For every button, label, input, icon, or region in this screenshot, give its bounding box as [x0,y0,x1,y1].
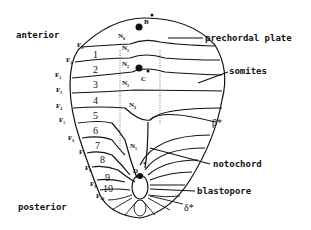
svg-text:4: 4 [93,95,98,106]
svg-text:N0: N0 [118,32,125,41]
point-b-label: B [144,18,149,26]
svg-text:F3: F3 [56,86,62,95]
svg-text:F2: F2 [55,71,61,80]
svg-text:F6: F6 [68,134,74,143]
svg-text:1: 1 [93,49,98,60]
svg-text:F4: F4 [56,102,62,111]
point-d-star: * [143,160,147,168]
svg-text:8: 8 [100,154,105,165]
svg-text:F0: F0 [77,41,83,50]
svg-text:N3: N3 [122,79,129,88]
prechordal-plate-label: prechordal plate [205,33,292,43]
point-c [136,65,143,72]
svg-text:F1: F1 [66,56,72,65]
svg-text:F8: F8 [85,164,91,173]
point-c-small [147,70,150,73]
svg-text:F5: F5 [59,116,65,125]
somites-label: somites [229,66,267,76]
svg-text:N2: N2 [122,60,129,69]
notochord-label: notochord [213,159,262,169]
svg-text:N5: N5 [130,142,137,151]
b-star-dot [151,14,154,17]
blastopore-label: blastopore [197,186,252,196]
svg-text:9: 9 [105,172,110,183]
point-d-label: D [133,167,138,175]
delta-star-label: δ* [184,202,194,213]
svg-text:10: 10 [103,183,113,194]
svg-text:F7: F7 [79,148,85,157]
beta-star-label: β* [212,117,222,128]
point-c-label: C [141,75,146,83]
svg-text:N1: N1 [122,44,129,53]
blastopore-leader [150,189,195,191]
svg-text:N4: N4 [129,101,136,110]
svg-text:5: 5 [93,110,98,121]
svg-text:2: 2 [93,64,98,75]
anterior-label: anterior [16,30,60,40]
svg-text:F9: F9 [90,180,96,189]
somites-leader [198,72,228,83]
posterior-label: posterior [18,202,67,212]
svg-text:3: 3 [93,79,98,90]
svg-text:7: 7 [95,140,100,151]
embryo-fate-map-diagram: anterior posterior prechordal plate somi… [0,0,311,230]
point-b [136,24,143,31]
svg-text:6: 6 [93,125,98,136]
